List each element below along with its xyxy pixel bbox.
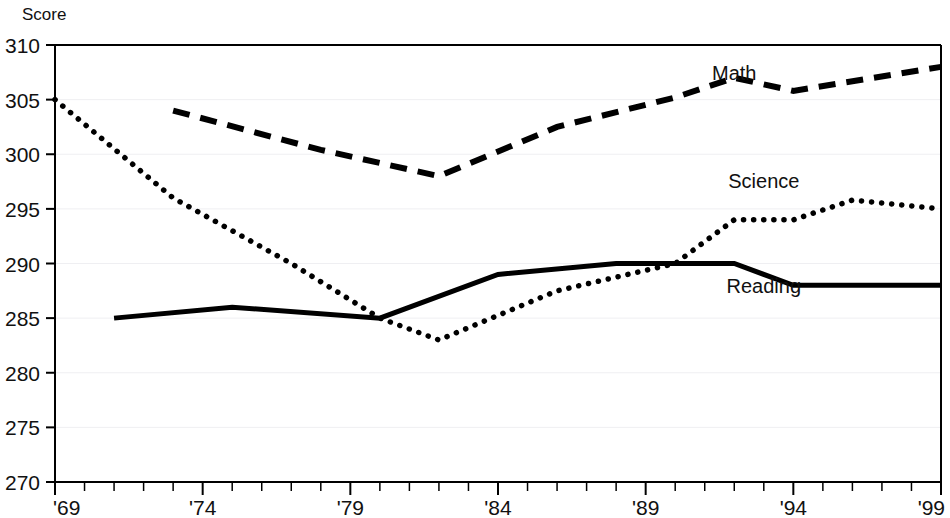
y-tick-label: 310 bbox=[5, 34, 40, 57]
y-tick-label: 295 bbox=[5, 198, 40, 221]
chart-container: 270275280285290295300305310 '69'74'79'84… bbox=[0, 0, 950, 518]
line-chart: 270275280285290295300305310 '69'74'79'84… bbox=[0, 0, 950, 518]
x-tick-label: '84 bbox=[484, 496, 512, 518]
y-tick-label: 305 bbox=[5, 89, 40, 112]
chart-background bbox=[0, 0, 950, 518]
x-tick-label: '79 bbox=[337, 496, 364, 518]
x-tick-label: '74 bbox=[189, 496, 217, 518]
x-tick-label: '89 bbox=[632, 496, 659, 518]
y-axis-title: Score bbox=[22, 5, 66, 24]
x-tick-label: '94 bbox=[780, 496, 808, 518]
y-tick-label: 270 bbox=[5, 471, 40, 494]
y-tick-label: 275 bbox=[5, 416, 40, 439]
y-tick-label: 285 bbox=[5, 307, 40, 330]
x-tick-label: '69 bbox=[53, 496, 80, 518]
x-tick-label: '99 bbox=[918, 496, 945, 518]
y-tick-label: 300 bbox=[5, 143, 40, 166]
series-label-science: Science bbox=[728, 170, 799, 192]
y-tick-label: 280 bbox=[5, 362, 40, 385]
y-tick-label: 290 bbox=[5, 253, 40, 276]
series-label-reading: Reading bbox=[727, 275, 802, 297]
series-label-math: Math bbox=[712, 62, 756, 84]
y-axis-tick-labels: 270275280285290295300305310 bbox=[5, 34, 40, 494]
